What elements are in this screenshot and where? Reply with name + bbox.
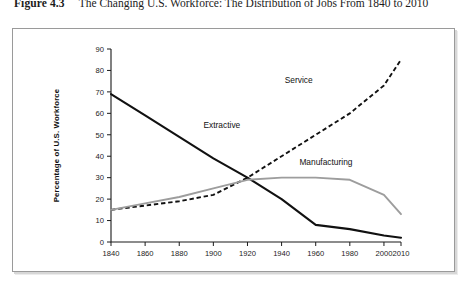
x-axis-tick-label: 1940 [273,249,290,258]
y-axis-tick-label: 70 [96,88,104,97]
x-axis-tick-label: 1900 [205,249,222,258]
x-axis-tick-label: 1840 [103,249,120,258]
x-axis-tick-label: 1920 [239,249,256,258]
figure-number: Figure 4.3 [14,0,65,10]
x-axis-tick-label: 1980 [341,249,358,258]
series-label-service: Service [285,75,313,85]
y-axis-tick-label: 0 [100,238,104,247]
y-axis-tick-label: 40 [96,152,104,161]
series-label-manufacturing: Manufacturing [299,157,352,167]
figure-title: The Changing U.S. Workforce: The Distrib… [79,0,429,10]
x-axis-tick-label: 1860 [137,249,154,258]
chart-svg: 0102030405060708090184018601880190019201… [13,29,456,273]
chart-axes [111,49,401,242]
line-chart: 0102030405060708090184018601880190019201… [13,29,456,273]
x-axis-tick-label: 1880 [171,249,188,258]
y-axis-tick-label: 90 [96,45,104,54]
x-axis-tick-label: 1960 [307,249,324,258]
y-axis-tick-label: 80 [96,66,104,75]
series-line-extractive [111,94,401,238]
y-axis-tick-label: 60 [96,109,104,118]
y-axis-tick-label: 30 [96,173,104,182]
figure-caption: Figure 4.3 The Changing U.S. Workforce: … [14,0,454,10]
figure-box: 0102030405060708090184018601880190019201… [12,28,455,272]
series-line-service [111,60,401,210]
y-axis-tick-label: 10 [96,216,104,225]
x-axis-tick-label: 2000 [375,249,392,258]
y-axis-tick-label: 20 [96,195,104,204]
caption-row: Figure 4.3 The Changing U.S. Workforce: … [14,0,454,10]
y-axis-tick-label: 50 [96,131,104,140]
y-axis-title: Percentage of U.S. Workforce [52,88,61,202]
x-axis-tick-label: 2010 [393,249,410,258]
series-label-extractive: Extractive [203,120,240,130]
